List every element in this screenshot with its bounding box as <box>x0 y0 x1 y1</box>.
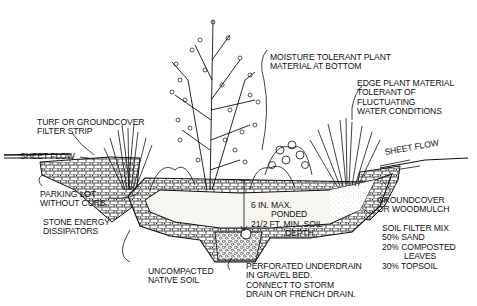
perforated-underdrain-label: PERFORATED UNDERDRAIN IN GRAVEL BED. CON… <box>246 262 362 300</box>
label-line: DRAIN OR FRENCH DRAIN. <box>246 290 362 299</box>
label-line: 30% TOPSOIL <box>382 262 456 271</box>
stone-energy-dissipators-label: STONE ENERGY DISSIPATORS <box>43 218 110 237</box>
label-line: MATERIAL AT BOTTOM <box>270 62 391 71</box>
label-line: WITHOUT CURB <box>40 199 105 208</box>
parking-lot-label: PARKING LOT WITHOUT CURB <box>40 190 105 209</box>
uncompacted-native-soil-label: UNCOMPACTED NATIVE SOIL <box>148 267 214 286</box>
sheet-flow-left-label: SHEET FLOW <box>20 152 75 161</box>
ground-left <box>4 154 140 222</box>
label-line: WATER CONDITIONS <box>357 107 454 116</box>
label-line: DEPTH <box>251 229 323 238</box>
tree-illustration <box>170 20 260 190</box>
turf-filter-strip-label: TURF OR GROUNDCOVER FILTER STRIP <box>37 118 144 137</box>
label-line: FILTER STRIP <box>37 127 144 136</box>
moisture-tolerant-plants-label: MOISTURE TOLERANT PLANT MATERIAL AT BOTT… <box>270 53 391 72</box>
label-line: OR WOODMULCH <box>377 205 449 214</box>
groundcover-woodmulch-label: GROUNDCOVER OR WOODMULCH <box>377 196 449 215</box>
edge-plant-material-label: EDGE PLANT MATERIAL TOLERANT OF FLUCTUAT… <box>357 79 454 117</box>
label-line: DISSIPATORS <box>43 227 110 236</box>
soil-filter-mix-label: SOIL FILTER MIX 50% SAND 20% COMPOSTED L… <box>382 224 456 271</box>
ponded-depth-label: 6 IN. MAX. PONDED 21/2 FT. MIN. SOIL DEP… <box>251 201 323 239</box>
label-line: NATIVE SOIL <box>148 276 214 285</box>
